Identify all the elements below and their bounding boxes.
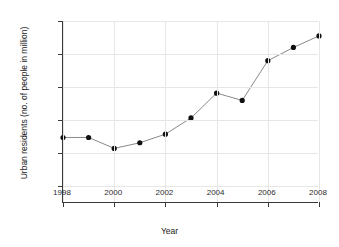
data-point-marker: [86, 135, 91, 140]
data-point-marker: [137, 140, 142, 145]
x-axis-tick: [268, 202, 269, 207]
x-axis-tick: [63, 202, 64, 207]
gridline-vertical: [268, 21, 269, 202]
gridline-horizontal: [63, 153, 318, 154]
x-axis-tick-label: 2002: [155, 188, 173, 197]
data-line: [63, 36, 319, 149]
data-point-marker: [291, 45, 296, 50]
y-axis-title: Urban residents (no. of people in millio…: [19, 8, 29, 198]
chart-figure: 150.0160.0170.0180.0190.0200.0 199820002…: [0, 0, 339, 247]
x-axis-tick: [165, 202, 166, 207]
x-axis-tick: [114, 202, 115, 207]
data-series-line: [63, 21, 319, 203]
x-axis-tick-label: 2004: [207, 188, 225, 197]
x-axis-tick: [319, 202, 320, 207]
gridline-horizontal: [63, 87, 318, 88]
gridline-vertical: [319, 21, 320, 202]
gridline-vertical: [165, 21, 166, 202]
x-axis-tick-label: 1998: [53, 188, 71, 197]
gridline-horizontal: [63, 21, 318, 22]
gridline-horizontal: [63, 120, 318, 121]
gridline-horizontal: [63, 186, 318, 187]
x-axis-tick: [217, 202, 218, 207]
x-axis-tick-label: 2008: [309, 188, 327, 197]
gridline-vertical: [217, 21, 218, 202]
x-axis-tick-label: 2006: [258, 188, 276, 197]
gridline-vertical: [63, 21, 64, 202]
x-axis-title: Year: [0, 226, 339, 236]
data-point-marker: [240, 98, 245, 103]
plot-area: [62, 21, 318, 203]
x-axis-tick-label: 2000: [104, 188, 122, 197]
gridline-vertical: [114, 21, 115, 202]
gridline-horizontal: [63, 54, 318, 55]
